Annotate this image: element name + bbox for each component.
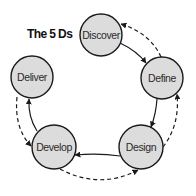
arrow-discover-to-define — [120, 43, 146, 63]
node-label-design: Design — [126, 141, 157, 153]
arrow-design-to-define-dashed — [163, 94, 177, 147]
arrow-design-to-develop — [75, 154, 120, 156]
node-deliver: Deliver — [11, 56, 53, 98]
node-develop: Develop — [32, 125, 76, 169]
arrow-define-to-discover-dashed — [121, 24, 161, 57]
diagram-title: The 5 Ds — [27, 27, 72, 41]
node-discover: Discover — [80, 14, 122, 56]
five-ds-diagram: The 5 Ds Discover Define Design — [0, 0, 196, 196]
node-define: Define — [141, 57, 183, 99]
node-label-define: Define — [148, 72, 177, 84]
arrow-develop-to-design-dashed — [60, 169, 138, 180]
arrow-define-to-design — [151, 99, 157, 127]
node-label-develop: Develop — [36, 141, 72, 153]
node-design: Design — [119, 125, 163, 169]
arrow-develop-to-deliver — [29, 99, 37, 131]
node-label-deliver: Deliver — [17, 71, 48, 83]
node-label-discover: Discover — [82, 29, 121, 41]
